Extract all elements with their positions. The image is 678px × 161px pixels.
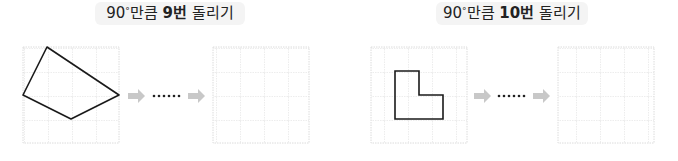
ellipsis-dots: [498, 95, 526, 98]
problem-1-answer-grid[interactable]: [213, 47, 309, 143]
problem-1-start-grid: [23, 47, 119, 143]
right-arrow-icon: [128, 89, 145, 103]
problem-2-answer-grid[interactable]: [558, 47, 654, 143]
right-arrow-icon: [188, 89, 205, 103]
diagram-canvas: [0, 0, 678, 161]
ellipsis-dots: [153, 95, 181, 98]
right-arrow-icon: [474, 89, 491, 103]
right-arrow-icon: [533, 89, 550, 103]
